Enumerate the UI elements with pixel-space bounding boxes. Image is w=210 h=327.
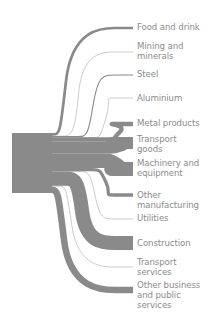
label-steel: Steel	[137, 69, 158, 79]
label-construction: Construction	[137, 238, 191, 248]
label-food-and-drink: Food and drink	[137, 22, 200, 32]
flow-5	[50, 143, 133, 148]
label-transport-goods: Transport goods	[137, 134, 176, 154]
label-mining-and-minerals: Mining and minerals	[137, 41, 183, 61]
flow-paths	[50, 28, 133, 290]
label-other-business-and-public-services: Other business and public services	[137, 280, 200, 310]
label-aluminium: Aluminium	[137, 93, 182, 103]
label-utilities: Utilities	[137, 213, 168, 223]
flow-6	[50, 161, 133, 169]
label-other-manufacturing: Other manufacturing	[137, 190, 199, 210]
label-transport-services: Transport services	[137, 257, 176, 277]
source-node	[12, 133, 52, 193]
flow-0	[50, 28, 133, 134]
label-machinery-and-equipment: Machinery and equipment	[137, 158, 199, 178]
label-metal-products: Metal products	[137, 118, 200, 128]
